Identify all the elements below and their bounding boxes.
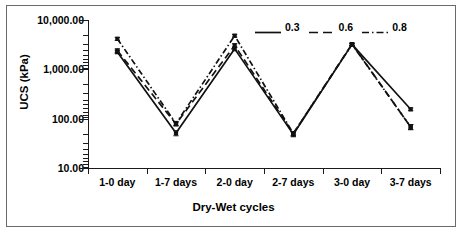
data-point	[233, 34, 237, 38]
data-point	[409, 107, 413, 111]
data-point	[350, 42, 354, 46]
data-point	[233, 43, 237, 47]
series-0.8	[115, 34, 414, 136]
data-point	[115, 48, 119, 52]
data-point	[174, 131, 178, 135]
series-line-0.8	[117, 36, 410, 134]
data-point	[174, 121, 178, 125]
data-series-layer	[0, 0, 467, 237]
chart-figure: UCS (kPa) 10,000.00 1,000.00 100.00 10.0…	[0, 0, 467, 237]
data-point	[115, 37, 119, 41]
series-0.6	[115, 42, 414, 136]
data-point	[291, 131, 295, 135]
data-point	[409, 125, 413, 129]
series-line-0.6	[117, 44, 410, 133]
